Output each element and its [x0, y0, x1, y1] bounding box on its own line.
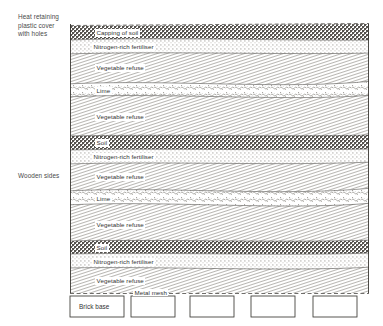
layer-label-vegetable-refuse-5: Vegetable refuse [95, 277, 145, 285]
brick-base-group [70, 296, 357, 317]
layer-label-nitrogen-fertiliser-2: Nitrogen-rich fertiliser [92, 153, 155, 161]
layer-label-nitrogen-fertiliser-1: Nitrogen-rich fertiliser [92, 43, 155, 51]
layer-label-lime-2: Lime [95, 195, 112, 203]
layer-label-vegetable-refuse-1: Vegetable refuse [95, 64, 145, 72]
brick [190, 296, 234, 317]
layer-label-vegetable-refuse-4: Vegetable refuse [95, 221, 145, 229]
layer-label-nitrogen-fertiliser-3: Nitrogen-rich fertiliser [92, 258, 155, 266]
brick [131, 296, 175, 317]
layer-soil-2 [66, 240, 373, 254]
label-heat-retaining-plastic-cover: Heat retaining plastic cover with holes [18, 13, 80, 39]
label-metal-mesh: Metal mesh [133, 289, 168, 296]
layer-label-lime-1: Lime [95, 87, 112, 95]
brick [251, 296, 295, 317]
layer-soil-1 [66, 135, 373, 150]
layer-label-capping-of-soil: Capping of soil [95, 29, 140, 37]
compost-heap-diagram [0, 0, 383, 326]
label-wooden-sides: Wooden sides [18, 172, 80, 181]
layer-label-vegetable-refuse-2: Vegetable refuse [95, 113, 145, 121]
layer-label-vegetable-refuse-3: Vegetable refuse [95, 173, 145, 181]
layer-label-soil-1: Soil [95, 139, 109, 147]
label-brick-base: Brick base [79, 303, 109, 310]
layer-label-soil-2: Soil [95, 244, 109, 252]
brick [313, 296, 357, 317]
